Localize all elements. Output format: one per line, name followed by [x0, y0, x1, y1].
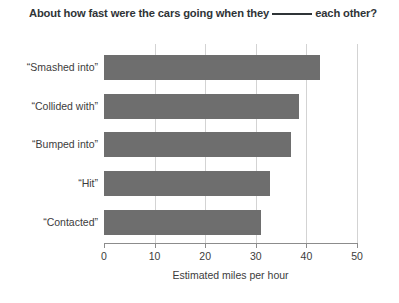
bar — [104, 132, 291, 157]
x-tick-mark-30 — [256, 243, 257, 248]
bar-chart-figure: About how fast were the cars going when … — [0, 0, 399, 303]
x-tick-mark-10 — [155, 243, 156, 248]
chart-title-after-blank: each other? — [315, 7, 377, 19]
x-tick-label-10: 10 — [149, 250, 161, 262]
x-tick-mark-0 — [104, 243, 105, 248]
x-tick-label-30: 30 — [250, 250, 262, 262]
y-axis-category-labels: “Smashed into”“Collided with”“Bumped int… — [0, 0, 98, 303]
x-tick-mark-50 — [357, 243, 358, 248]
y-axis-category-label: “Bumped into” — [2, 138, 98, 150]
x-tick-label-50: 50 — [351, 250, 363, 262]
chart-title-blank-underline — [272, 13, 312, 15]
plot-area — [104, 44, 357, 243]
gridline-50 — [357, 44, 358, 243]
x-tick-label-20: 20 — [199, 250, 211, 262]
bar — [104, 171, 270, 196]
bar — [104, 94, 299, 119]
x-tick-label-0: 0 — [101, 250, 107, 262]
y-axis-category-label: “Contacted” — [2, 216, 98, 228]
x-tick-mark-20 — [205, 243, 206, 248]
x-axis-line — [104, 243, 358, 244]
bar — [104, 210, 261, 235]
y-axis-category-label: “Smashed into” — [2, 61, 98, 73]
bar — [104, 55, 320, 80]
y-axis-category-label: “Collided with” — [2, 100, 98, 112]
x-axis-label: Estimated miles per hour — [104, 269, 357, 281]
y-axis-category-label: “Hit” — [2, 177, 98, 189]
x-tick-mark-40 — [306, 243, 307, 248]
x-tick-label-40: 40 — [301, 250, 313, 262]
